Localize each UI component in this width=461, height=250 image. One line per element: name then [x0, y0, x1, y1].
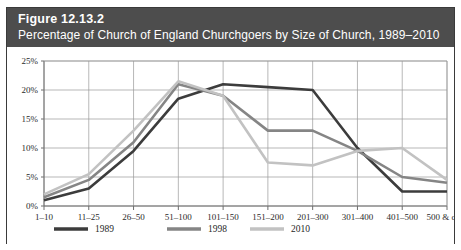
y-axis-tick-label: 0%: [26, 201, 39, 211]
x-axis-tick-label: 301–400: [342, 212, 374, 222]
data-series-group: [44, 81, 447, 200]
figure-frame: Figure 12.13.2 Percentage of Church of E…: [6, 7, 455, 244]
figure-title: Percentage of Church of England Churchgo…: [18, 27, 454, 43]
chart-body: 0%5%10%15%20%25% 1–1011–2526–5051–100101…: [7, 47, 454, 245]
y-axis-tick-label: 5%: [26, 172, 39, 182]
x-axis-tick-label: 26–50: [122, 212, 145, 222]
x-axis-tick-label: 500 & over: [427, 212, 455, 222]
grid-lines: [41, 61, 447, 206]
x-axis-tick-label: 101–150: [207, 212, 239, 222]
x-axis-tick-label: 11–25: [78, 212, 101, 222]
y-axis-tick-label: 20%: [22, 85, 39, 95]
legend-label-2010: 2010: [291, 224, 310, 234]
figure-number: Figure 12.13.2: [18, 12, 454, 27]
x-axis-tick-label: 51–100: [165, 212, 193, 222]
figure-header: Figure 12.13.2 Percentage of Church of E…: [7, 8, 454, 47]
plot-area: 0%5%10%15%20%25% 1–1011–2526–5051–100101…: [7, 47, 454, 245]
x-axis-tick-label: 1–10: [35, 212, 54, 222]
y-axis-tick-label: 15%: [22, 114, 39, 124]
y-axis-tick-label: 10%: [22, 143, 39, 153]
chart-legend: 198919982010: [54, 224, 310, 234]
line-chart-svg: 0%5%10%15%20%25% 1–1011–2526–5051–100101…: [7, 47, 454, 245]
x-axis-ticks: 1–1011–2526–5051–100101–150151–200201–30…: [35, 206, 454, 222]
figure-root: Figure 12.13.2 Percentage of Church of E…: [0, 0, 461, 250]
legend-label-1998: 1998: [208, 224, 227, 234]
y-axis-tick-label: 25%: [22, 56, 39, 66]
y-axis-ticks: 0%5%10%15%20%25%: [22, 56, 39, 211]
x-axis-tick-label: 401–500: [386, 212, 418, 222]
x-axis-tick-label: 151–200: [252, 212, 284, 222]
series-line-1998: [44, 84, 447, 197]
x-axis-tick-label: 201–300: [297, 212, 329, 222]
legend-label-1989: 1989: [95, 224, 114, 234]
series-line-1989: [44, 84, 447, 200]
